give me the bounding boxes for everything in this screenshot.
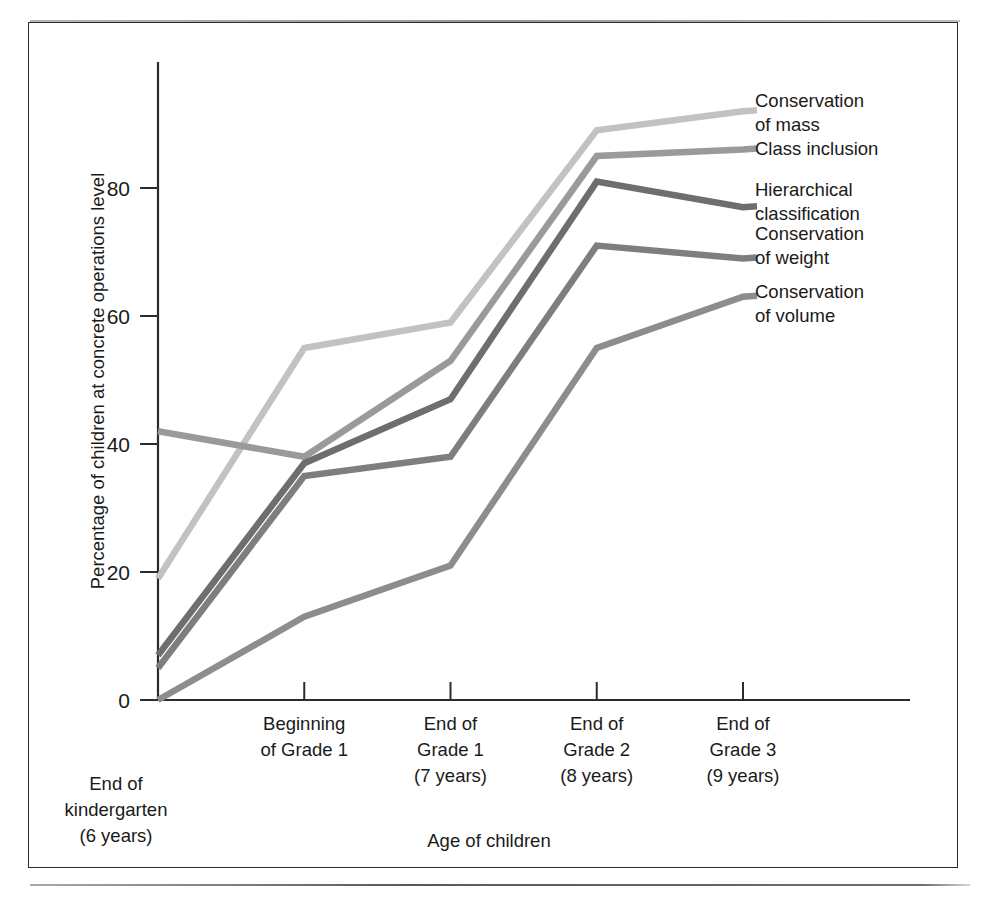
legend-label-4: Conservation	[755, 281, 864, 302]
y-tick-label: 20	[107, 561, 130, 584]
y-axis-title: Percentage of children at concrete opera…	[87, 173, 108, 590]
y-axis-title-text: Percentage of children at concrete opera…	[87, 173, 108, 590]
legend-label-2: Hierarchical	[755, 179, 853, 200]
legend-label-1: Class inclusion	[755, 138, 878, 159]
x-axis-category-label: (6 years)	[80, 825, 153, 846]
x-axis-category-label: of Grade 1	[261, 739, 348, 760]
x-axis-category-label: Grade 2	[563, 739, 630, 760]
legend-label-3-line2: of weight	[755, 247, 829, 268]
x-axis-category-label: (7 years)	[414, 765, 487, 786]
chart-svg: 020406080 Percentage of children at conc…	[0, 0, 989, 911]
y-tick-label: 40	[107, 433, 130, 456]
x-axis-category-label: End of	[89, 773, 143, 794]
legend-label-0: Conservation	[755, 90, 864, 111]
x-axis-category-label: (9 years)	[707, 765, 780, 786]
x-axis-category-label: Grade 3	[710, 739, 777, 760]
x-axis-category-label: Grade 1	[417, 739, 484, 760]
legend-label-2-line2: classification	[755, 203, 860, 224]
legend-label-0-line2: of mass	[755, 114, 820, 135]
x-axis-category-label: End of	[570, 713, 624, 734]
y-tick-label: 60	[107, 305, 130, 328]
x-axis-category-label: Beginning	[263, 713, 345, 734]
y-tick-label: 0	[118, 689, 130, 712]
x-axis-labels: End ofkindergarten(6 years)Beginningof G…	[65, 713, 780, 846]
x-axis-title-text: Age of children	[427, 830, 550, 851]
legend-label-4-line2: of volume	[755, 305, 835, 326]
y-tick-label: 80	[107, 177, 130, 200]
series-line-0	[158, 110, 757, 578]
x-axis-category-label: kindergarten	[65, 799, 168, 820]
chart-legend: Conservationof massClass inclusionHierar…	[755, 90, 878, 326]
y-axis-ticks: 020406080	[107, 177, 158, 712]
x-axis-category-label: End of	[716, 713, 770, 734]
x-axis-ticks	[304, 682, 743, 700]
line-chart: 020406080 Percentage of children at conc…	[0, 0, 989, 911]
series-layer	[158, 110, 757, 700]
x-axis-category-label: End of	[424, 713, 478, 734]
x-axis-category-label: (8 years)	[560, 765, 633, 786]
legend-label-3: Conservation	[755, 223, 864, 244]
